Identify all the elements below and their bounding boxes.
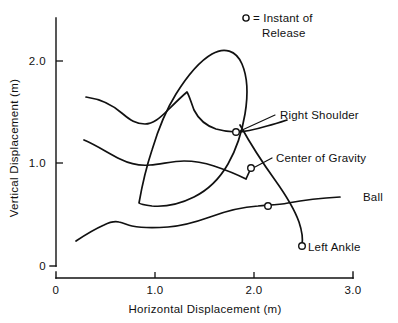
- leader-center-of-gravity: [255, 158, 272, 167]
- curve-left-ankle-descent: [240, 125, 302, 245]
- series-label-right-shoulder: Right Shoulder: [280, 109, 359, 121]
- x-axis-title: Horizontal Displacement (m): [128, 303, 281, 315]
- release-markers-group: [233, 129, 306, 250]
- release-marker-ball[interactable]: [265, 203, 272, 210]
- release-marker-right-shoulder[interactable]: [233, 129, 240, 136]
- y-tick-label-0: 0: [39, 260, 46, 272]
- legend-label-line2: Release: [262, 27, 306, 39]
- release-marker-center-of-gravity[interactable]: [248, 165, 255, 172]
- trajectory-plot: 0 1.0 2.0 0 1.0 2.0 3.0 Horizontal Displ…: [0, 0, 398, 323]
- curve-ball: [76, 197, 340, 241]
- release-marker-left-ankle[interactable]: [299, 243, 306, 250]
- legend-label-line1: = Instant of: [253, 12, 313, 24]
- x-tick-label-2: 2.0: [245, 284, 262, 296]
- curve-center-of-gravity: [84, 140, 251, 179]
- legend-open-circle-icon: [243, 15, 249, 21]
- series-label-center-of-gravity: Center of Gravity: [276, 152, 366, 164]
- curve-left-ankle-loop: [139, 50, 247, 206]
- series-labels-group: Right Shoulder Center of Gravity Ball Le…: [240, 109, 383, 253]
- series-label-left-ankle: Left Ankle: [308, 241, 361, 253]
- curves-group: [76, 50, 340, 245]
- chart-figure: 0 1.0 2.0 0 1.0 2.0 3.0 Horizontal Displ…: [0, 0, 398, 323]
- axes-group: [50, 18, 353, 278]
- curve-right-shoulder: [86, 92, 287, 132]
- y-tick-label-1: 1.0: [29, 157, 46, 169]
- x-tick-label-1: 1.0: [146, 284, 163, 296]
- x-tick-label-0: 0: [53, 284, 60, 296]
- x-tick-label-3: 3.0: [344, 284, 361, 296]
- series-label-ball: Ball: [363, 191, 383, 203]
- legend: = Instant of Release: [243, 12, 313, 39]
- y-axis-title: Vertical Displacement (m): [8, 79, 20, 218]
- y-tick-label-2: 2.0: [29, 55, 46, 67]
- tick-labels-group: 0 1.0 2.0 0 1.0 2.0 3.0: [29, 55, 362, 296]
